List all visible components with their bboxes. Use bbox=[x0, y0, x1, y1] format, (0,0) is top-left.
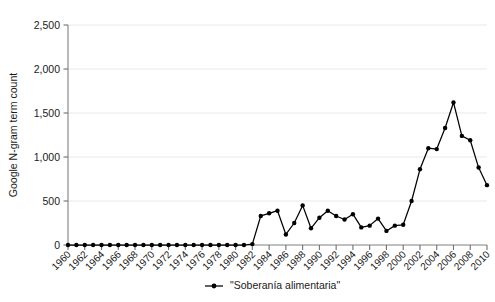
data-point-marker bbox=[275, 208, 279, 212]
data-point-marker bbox=[418, 167, 422, 171]
data-point-marker bbox=[267, 211, 271, 215]
grid-lines bbox=[68, 25, 487, 201]
data-point-marker bbox=[326, 208, 330, 212]
x-axis-tick-label: 2010 bbox=[468, 248, 492, 272]
data-point-marker bbox=[133, 243, 137, 247]
y-axis-tick-label: 500 bbox=[42, 195, 60, 207]
series-group bbox=[66, 100, 489, 247]
data-point-marker bbox=[141, 243, 145, 247]
data-point-marker bbox=[200, 243, 204, 247]
data-point-marker bbox=[116, 243, 120, 247]
y-axis: 05001,0001,5002,0002,500 bbox=[34, 19, 68, 251]
data-point-marker bbox=[468, 138, 472, 142]
data-point-marker bbox=[74, 243, 78, 247]
data-point-marker bbox=[342, 217, 346, 221]
data-point-marker bbox=[217, 243, 221, 247]
data-point-marker bbox=[124, 243, 128, 247]
data-point-marker bbox=[367, 223, 371, 227]
data-point-marker bbox=[435, 147, 439, 151]
data-point-marker bbox=[175, 243, 179, 247]
data-point-marker bbox=[300, 203, 304, 207]
data-point-marker bbox=[150, 243, 154, 247]
y-axis-tick-label: 1,000 bbox=[34, 151, 60, 163]
data-point-marker bbox=[384, 229, 388, 233]
data-point-marker bbox=[476, 165, 480, 169]
data-point-marker bbox=[83, 243, 87, 247]
data-point-marker bbox=[242, 243, 246, 247]
data-point-marker bbox=[233, 243, 237, 247]
y-axis-tick-label: 2,500 bbox=[34, 19, 60, 31]
y-axis-tick-label: 2,000 bbox=[34, 63, 60, 75]
series-line bbox=[68, 102, 487, 245]
data-point-marker bbox=[208, 243, 212, 247]
data-point-marker bbox=[66, 243, 70, 247]
data-point-marker bbox=[443, 126, 447, 130]
chart-legend: "Soberanía alimentaria" bbox=[205, 279, 340, 291]
data-point-marker bbox=[292, 221, 296, 225]
data-point-marker bbox=[451, 100, 455, 104]
data-point-marker bbox=[250, 242, 254, 246]
data-point-marker bbox=[166, 243, 170, 247]
y-axis-tick-label: 0 bbox=[54, 239, 60, 251]
data-point-marker bbox=[426, 146, 430, 150]
data-point-marker bbox=[317, 216, 321, 220]
data-point-marker bbox=[158, 243, 162, 247]
data-point-marker bbox=[91, 243, 95, 247]
x-axis: 1960196219641966196819701972197419761978… bbox=[49, 245, 492, 272]
data-point-marker bbox=[401, 223, 405, 227]
legend-marker-swatch bbox=[212, 284, 217, 289]
ngram-line-chart: 05001,0001,5002,0002,500Google N-gram te… bbox=[0, 0, 495, 302]
data-point-marker bbox=[225, 243, 229, 247]
data-point-marker bbox=[99, 243, 103, 247]
data-point-marker bbox=[192, 243, 196, 247]
data-point-marker bbox=[183, 243, 187, 247]
y-axis-title: Google N-gram term count bbox=[7, 73, 19, 197]
data-point-marker bbox=[393, 223, 397, 227]
y-axis-tick-label: 1,500 bbox=[34, 107, 60, 119]
data-point-marker bbox=[409, 199, 413, 203]
data-point-marker bbox=[485, 183, 489, 187]
data-point-marker bbox=[376, 216, 380, 220]
data-point-marker bbox=[334, 214, 338, 218]
data-point-marker bbox=[284, 232, 288, 236]
data-point-marker bbox=[460, 134, 464, 138]
legend-entry-label: "Soberanía alimentaria" bbox=[230, 279, 340, 291]
chart-figure: 05001,0001,5002,0002,500Google N-gram te… bbox=[0, 0, 495, 302]
data-point-marker bbox=[259, 214, 263, 218]
data-point-marker bbox=[359, 225, 363, 229]
data-point-marker bbox=[351, 212, 355, 216]
data-point-marker bbox=[108, 243, 112, 247]
data-point-marker bbox=[309, 226, 313, 230]
